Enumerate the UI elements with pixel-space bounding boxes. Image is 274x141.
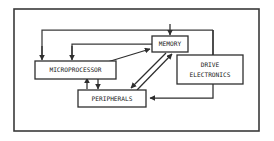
drive-electronics-box[interactable] — [177, 55, 243, 84]
system-block-diagram: MICROPROCESSOR MEMORY PERIPHERALS DRIVE … — [0, 0, 274, 141]
block-drive-electronics[interactable]: DRIVE ELECTRONICS — [177, 55, 243, 84]
drive-electronics-label-line1: DRIVE — [201, 61, 220, 68]
block-peripherals[interactable]: PERIPHERALS — [78, 90, 146, 107]
peripherals-label: PERIPHERALS — [92, 95, 133, 102]
memory-label: MEMORY — [159, 40, 182, 47]
block-microprocessor[interactable]: MICROPROCESSOR — [35, 61, 116, 79]
block-memory[interactable]: MEMORY — [152, 36, 188, 52]
microprocessor-label: MICROPROCESSOR — [49, 66, 101, 73]
figure-root: MICROPROCESSOR MEMORY PERIPHERALS DRIVE … — [0, 0, 274, 141]
drive-electronics-label-line2: ELECTRONICS — [190, 71, 231, 78]
